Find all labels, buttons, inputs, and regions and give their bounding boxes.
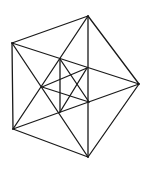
- edge-upper-left-to-top: [12, 16, 88, 43]
- edge-inner-left-to-inner-upper-right: [42, 68, 87, 87]
- edge-inner-left-to-inner-lower-right: [42, 87, 89, 102]
- edge-bottom-to-lower-left: [13, 129, 88, 157]
- edge-bottom-to-upper-left: [12, 43, 88, 157]
- edge-inner-bottom-to-inner-upper-right: [60, 68, 87, 112]
- geometric-diagram: [0, 0, 151, 170]
- edge-lower-left-to-upper-left: [12, 43, 13, 129]
- edge-inner-top-to-inner-lower-right: [60, 59, 89, 102]
- edge-right-to-bottom: [88, 84, 139, 157]
- edge-upper-left-to-right: [12, 43, 139, 84]
- edge-lower-left-to-right: [13, 84, 139, 129]
- edge-top-to-right: [88, 16, 139, 84]
